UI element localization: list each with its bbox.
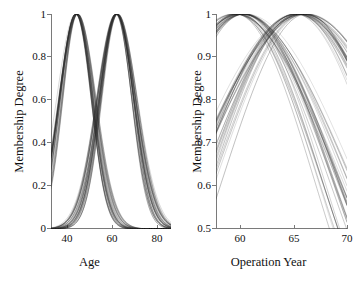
- y-tick-label-age-5: 1: [18, 9, 46, 20]
- x-tick-label-year-0: 60: [226, 233, 254, 244]
- x-tick-label-year-1: 65: [280, 233, 308, 244]
- y-tick-label-age-1: 0.2: [18, 180, 46, 191]
- plot-area-operation-year: [216, 14, 347, 229]
- y-tick-label-year-2: 0.7: [183, 137, 211, 148]
- y-tick-label-year-4: 0.9: [183, 51, 211, 62]
- y-tick-label-age-2: 0.4: [18, 137, 46, 148]
- chart-panel-age: Membership Degree 0 0.2 0.4 0.6 0.8 1 40…: [0, 0, 179, 289]
- y-axis-title-operation-year: Membership Degree: [191, 57, 204, 187]
- x-axis-title-operation-year: Operation Year: [179, 256, 358, 269]
- y-tick-label-year-1: 0.6: [183, 180, 211, 191]
- y-tick-label-age-4: 0.8: [18, 51, 46, 62]
- y-tick-label-age-3: 0.6: [18, 94, 46, 105]
- curves-svg-age: [51, 14, 171, 229]
- y-tick-label-year-3: 0.8: [183, 94, 211, 105]
- x-tick-label-age-2: 80: [143, 233, 171, 244]
- curves-svg-operation-year: [216, 14, 347, 229]
- x-axis-title-age: Age: [0, 256, 179, 269]
- x-tick-label-age-0: 40: [53, 233, 81, 244]
- y-axis-title-age: Membership Degree: [13, 57, 26, 187]
- y-tick-label-year-0: 0.5: [183, 223, 211, 234]
- membership-function-figure: Membership Degree 0 0.2 0.4 0.6 0.8 1 40…: [0, 0, 358, 289]
- x-tick-year-70: [347, 225, 348, 229]
- y-tick-label-age-0: 0: [18, 223, 46, 234]
- x-tick-label-age-1: 60: [98, 233, 126, 244]
- chart-panel-operation-year: Membership Degree 0.5 0.6 0.7 0.8 0.9 1 …: [179, 0, 358, 289]
- y-tick-label-year-5: 1: [183, 9, 211, 20]
- plot-area-age: [51, 14, 171, 229]
- x-tick-label-year-2: 70: [333, 233, 358, 244]
